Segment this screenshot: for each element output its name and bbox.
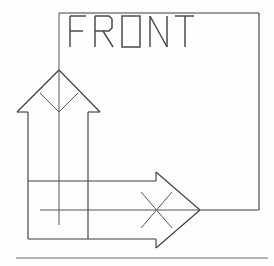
technical-drawing [0, 0, 274, 266]
letter-o-square-glyph [122, 16, 140, 47]
letter-n-glyph [150, 16, 167, 47]
right-arrow-head-top-slope [156, 172, 200, 210]
drawing-canvas: FRONT Technical line drawing: square vie… [0, 0, 274, 266]
front-label [70, 16, 194, 47]
letter-t-glyph [175, 16, 194, 47]
right-arrow-head-bottom-slope [156, 210, 200, 248]
letter-r-glyph [95, 16, 113, 47]
letter-f-glyph [70, 16, 86, 47]
